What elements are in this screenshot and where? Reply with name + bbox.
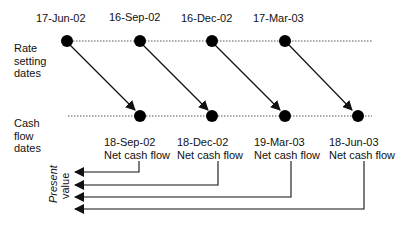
cash-flow-dot [279, 110, 291, 122]
rate-setting-date: 17-Mar-03 [253, 12, 304, 24]
net-cash-flow-caption: Net cash flow [254, 149, 320, 162]
cash-flow-dot [352, 110, 364, 122]
cash-flow-date: 19-Mar-03 Net cash flow [254, 136, 320, 161]
cash-flow-label: Cash flow dates [14, 117, 41, 155]
rate-setting-label: Rate setting dates [14, 42, 46, 80]
pv-arrow-3 [75, 161, 291, 197]
rate-setting-dot [279, 35, 291, 47]
cash-flow-date: 18-Jun-03 Net cash flow [329, 136, 395, 161]
rate-setting-dot [206, 35, 218, 47]
present-value-label: Present value [47, 165, 71, 203]
pv-arrow-2 [75, 161, 218, 185]
net-cash-flow-caption: Net cash flow [104, 149, 170, 162]
rate-setting-date: 16-Sep-02 [109, 11, 160, 23]
cash-flow-date: 18-Sep-02 Net cash flow [104, 136, 170, 161]
cash-flow-date: 18-Dec-02 Net cash flow [177, 136, 243, 161]
rate-setting-dot [134, 35, 146, 47]
cash-flow-dot [134, 110, 146, 122]
rate-setting-dot [61, 35, 73, 47]
net-cash-flow-caption: Net cash flow [329, 149, 395, 162]
pv-arrow-1 [75, 161, 139, 172]
rate-setting-date: 16-Dec-02 [181, 12, 232, 24]
cash-flow-dot [206, 110, 218, 122]
rate-setting-date: 17-Jun-02 [36, 12, 86, 24]
net-cash-flow-caption: Net cash flow [177, 149, 243, 162]
